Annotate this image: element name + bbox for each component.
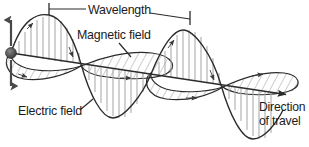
magnetic-lobe-1-fill [6, 53, 81, 80]
direction-of-travel-callout: Direction of travel [259, 100, 305, 128]
source-charge-sphere [6, 48, 17, 59]
wavelength-label: Wavelength [88, 3, 151, 17]
direction-of-travel-label-line1: Direction [259, 100, 305, 114]
electric-field-label: Electric field [18, 104, 82, 118]
direction-of-travel-label-line2: of travel [259, 114, 301, 128]
electric-field-callout: Electric field [18, 99, 93, 118]
wavelength-marker: Wavelength [49, 3, 190, 25]
wave-diagram-svg: Wavelength Magnetic field Electric field… [0, 0, 309, 147]
magnetic-field-label: Magnetic field [77, 28, 151, 42]
electric-hatch-crest-1 [19, 16, 79, 64]
electromagnetic-wave-figure: Wavelength Magnetic field Electric field… [0, 0, 309, 147]
wavelength-leader-right [150, 13, 190, 19]
